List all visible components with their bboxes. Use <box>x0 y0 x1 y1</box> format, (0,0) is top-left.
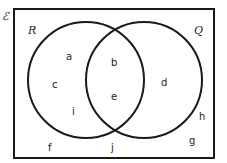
venn-diagram: ℰ R Q a b c d e i h g f j <box>0 0 227 163</box>
set-q-label: Q <box>194 24 203 37</box>
element-i: i <box>72 106 75 117</box>
element-g: g <box>189 135 195 146</box>
element-f: f <box>48 142 52 153</box>
set-r-label: R <box>27 24 36 37</box>
element-d: d <box>161 77 167 88</box>
element-h: h <box>199 111 205 122</box>
element-e: e <box>111 91 117 102</box>
element-b: b <box>111 57 117 68</box>
element-a: a <box>66 51 72 62</box>
universal-set-label: ℰ <box>2 10 10 23</box>
element-c: c <box>52 79 58 90</box>
element-j: j <box>110 142 114 153</box>
